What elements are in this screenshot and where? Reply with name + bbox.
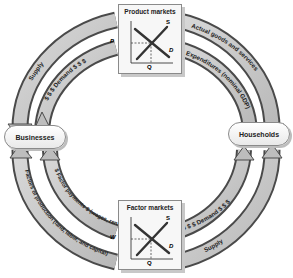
supply-demand-graph-icon [119,201,181,269]
price-axis-label: P [110,38,114,44]
supply-curve-label: S [166,215,170,221]
demand-curve-label: D [169,243,173,249]
businesses-node: Businesses [4,125,66,149]
households-node: Households [228,122,290,146]
quantity-axis-label: Q [147,64,152,70]
businesses-label: Businesses [16,134,55,141]
supply-curve-label: S [166,19,170,25]
factor-markets-box: Factor markets W Q S D [118,200,182,270]
supply-demand-graph-icon [119,5,181,73]
product-markets-box: Product markets P Q S D [118,4,182,74]
households-label: Households [239,131,279,138]
wage-axis-label: W [110,234,116,240]
quantity-axis-label: Q [147,260,152,266]
demand-curve-label: D [169,47,173,53]
